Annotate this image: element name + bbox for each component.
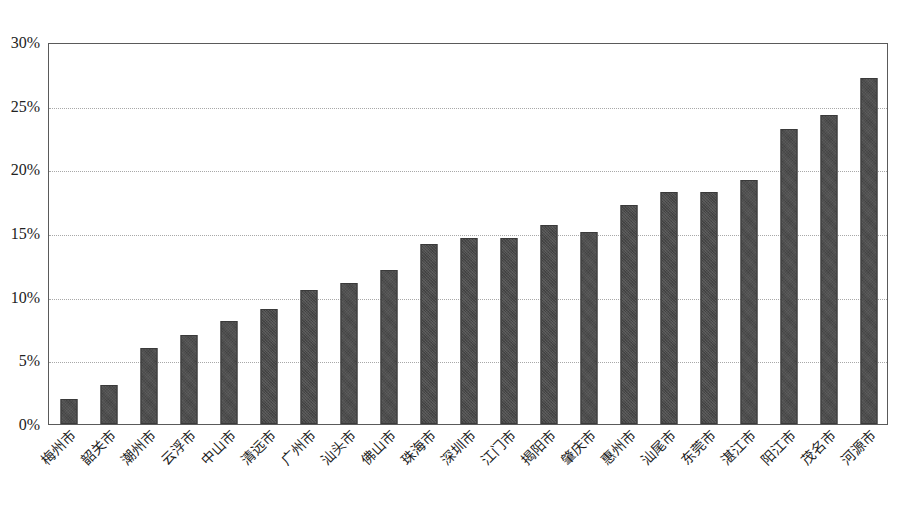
x-axis-label-slot: 河源市 [848,426,888,526]
bar-slot [769,44,809,424]
bar[interactable] [581,232,598,424]
y-axis-tick-label: 0% [19,416,40,434]
y-axis-tick-label: 30% [11,34,40,52]
bar[interactable] [181,335,198,424]
bar[interactable] [101,385,118,424]
bar[interactable] [221,321,238,424]
bar-slot [49,44,89,424]
bar[interactable] [541,225,558,424]
plot-area [48,43,888,425]
bar[interactable] [701,192,718,424]
bar[interactable] [621,205,638,424]
x-axis-label-slot: 潮州市 [128,426,168,526]
bar-slot [449,44,489,424]
bar[interactable] [61,399,78,424]
bar[interactable] [661,192,678,424]
bar-slot [369,44,409,424]
bar[interactable] [461,238,478,424]
bar-slot [89,44,129,424]
y-axis-tick-label: 10% [11,289,40,307]
x-axis-label-slot: 江门市 [488,426,528,526]
x-axis-label-slot: 梅州市 [48,426,88,526]
bar-chart: 0%5%10%15%20%25%30% 梅州市韶关市潮州市云浮市中山市清远市广州… [0,0,911,529]
x-axis-label-slot: 肇庆市 [568,426,608,526]
y-axis-tick-label: 20% [11,161,40,179]
bar-slot [729,44,769,424]
bar[interactable] [261,309,278,424]
bar-slot [529,44,569,424]
bar[interactable] [301,290,318,424]
bar[interactable] [381,270,398,424]
bar[interactable] [141,348,158,424]
x-axis-label-slot: 广州市 [288,426,328,526]
bar[interactable] [741,180,758,424]
bar-slot [689,44,729,424]
y-axis-tick-label: 15% [11,225,40,243]
bar[interactable] [341,283,358,424]
x-axis-label-slot: 汕尾市 [648,426,688,526]
bars-layer [49,44,887,424]
y-axis-tick-label: 25% [11,98,40,116]
bar[interactable] [781,129,798,424]
bar-slot [849,44,889,424]
bar-slot [649,44,689,424]
x-axis-label-slot: 汕头市 [328,426,368,526]
y-axis-tick-label: 5% [19,352,40,370]
x-axis-label-slot: 佛山市 [368,426,408,526]
x-axis-label-slot: 惠州市 [608,426,648,526]
x-axis-label-slot: 湛江市 [728,426,768,526]
bar-slot [129,44,169,424]
bar-slot [569,44,609,424]
bar-slot [169,44,209,424]
x-axis-label-slot: 茂名市 [808,426,848,526]
bar-slot [289,44,329,424]
bar-slot [609,44,649,424]
bar[interactable] [861,78,878,424]
x-axis-label-slot: 阳江市 [768,426,808,526]
y-axis: 0%5%10%15%20%25%30% [0,0,48,529]
bar[interactable] [421,244,438,424]
bar-slot [809,44,849,424]
bar[interactable] [501,238,518,424]
x-axis-label-slot: 揭阳市 [528,426,568,526]
bar-slot [249,44,289,424]
x-axis-label-slot: 韶关市 [88,426,128,526]
x-axis-label-slot: 云浮市 [168,426,208,526]
x-axis-label-slot: 东莞市 [688,426,728,526]
x-axis-label-slot: 中山市 [208,426,248,526]
x-axis-label-slot: 深圳市 [448,426,488,526]
x-axis-label-slot: 清远市 [248,426,288,526]
x-axis: 梅州市韶关市潮州市云浮市中山市清远市广州市汕头市佛山市珠海市深圳市江门市揭阳市肇… [48,426,888,526]
bar-slot [209,44,249,424]
bar-slot [489,44,529,424]
x-axis-label-slot: 珠海市 [408,426,448,526]
bar[interactable] [821,115,838,424]
bar-slot [329,44,369,424]
bar-slot [409,44,449,424]
